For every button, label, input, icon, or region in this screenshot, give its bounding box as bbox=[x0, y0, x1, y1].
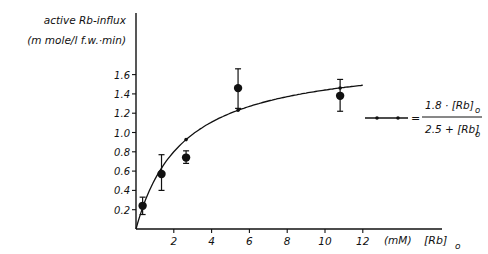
legend-denominator-sub: o bbox=[475, 129, 480, 139]
data-points bbox=[138, 69, 344, 215]
legend-denominator: 2.5 + [Rb] bbox=[425, 123, 479, 135]
y-tick-label: 0.8 bbox=[114, 147, 130, 158]
data-point bbox=[182, 153, 190, 161]
data-point bbox=[138, 202, 146, 210]
y-tick-label: 0.2 bbox=[114, 205, 130, 216]
legend: = 1.8 · [Rb] o 2.5 + [Rb] o bbox=[365, 99, 482, 139]
x-tick-label: 12 bbox=[356, 235, 370, 247]
x-axis-sub: o bbox=[455, 241, 461, 251]
x-axis-var: [Rb] bbox=[424, 234, 447, 247]
fit-marker bbox=[236, 108, 240, 112]
y-axis-label-line1: active Rb-influx bbox=[44, 14, 127, 26]
data-point bbox=[336, 92, 344, 100]
x-tick-label: 4 bbox=[208, 235, 215, 247]
y-axis-label-line2: (m mole/l f.w.·min) bbox=[27, 34, 126, 46]
fit-marker bbox=[184, 138, 188, 142]
y-tick-label: 1.6 bbox=[114, 70, 130, 81]
legend-numerator-sub: o bbox=[475, 105, 480, 115]
y-tick-label: 1.2 bbox=[114, 108, 130, 119]
x-axis-unit: (mM) bbox=[384, 234, 411, 246]
fit-markers bbox=[141, 86, 342, 209]
x-tick-label: 8 bbox=[284, 235, 291, 247]
x-tick-label: 2 bbox=[170, 235, 177, 247]
data-point bbox=[234, 84, 242, 92]
x-tick-label: 10 bbox=[318, 235, 332, 247]
y-tick-label: 0.4 bbox=[114, 185, 130, 196]
legend-numerator: 1.8 · [Rb] bbox=[425, 99, 474, 111]
chart-canvas: 0.20.40.60.81.01.21.41.6 24681012 active… bbox=[0, 0, 488, 254]
fit-curve bbox=[136, 85, 363, 229]
data-point bbox=[157, 170, 165, 178]
legend-marker-2 bbox=[396, 116, 400, 120]
y-tick-label: 0.6 bbox=[114, 166, 130, 177]
x-ticks: 24681012 bbox=[170, 229, 369, 247]
y-ticks: 0.20.40.60.81.01.21.41.6 bbox=[114, 70, 136, 216]
legend-equals: = bbox=[411, 112, 420, 125]
x-tick-label: 6 bbox=[246, 235, 253, 247]
legend-marker-1 bbox=[375, 116, 379, 120]
y-tick-label: 1.4 bbox=[114, 89, 130, 100]
y-tick-label: 1.0 bbox=[114, 128, 130, 139]
